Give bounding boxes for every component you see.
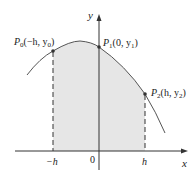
origin-label: 0: [90, 154, 95, 165]
tick-label-neg-h: −h: [46, 156, 58, 167]
y-axis-arrow-icon: [97, 14, 102, 21]
y-axis-label: y: [87, 9, 93, 21]
simpsons-parabola-diagram: y x 0 −h h P0(−h, y0) P1(0, y1) P2(h, y2…: [0, 0, 196, 170]
point-label-p1: P1(0, y1): [102, 37, 138, 50]
point-p0: [51, 49, 55, 53]
x-axis-arrow-icon: [181, 149, 188, 154]
point-p2: [143, 92, 147, 96]
point-label-p2: P2(h, y2): [150, 87, 186, 100]
point-label-p0: P0(−h, y0): [13, 36, 54, 49]
x-axis-label: x: [181, 157, 187, 169]
point-p1: [97, 45, 101, 49]
tick-label-h: h: [142, 156, 147, 167]
